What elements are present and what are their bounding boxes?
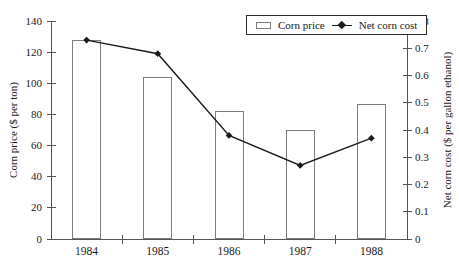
left-axis-tick-label: 140 bbox=[9, 15, 42, 28]
right-axis-tick bbox=[403, 130, 412, 131]
right-axis-tick-label: 0 bbox=[415, 233, 445, 246]
left-axis-tick bbox=[47, 176, 56, 177]
left-axis-tick bbox=[47, 207, 56, 208]
x-axis-line bbox=[51, 239, 408, 240]
left-axis-tick-label: 120 bbox=[9, 46, 42, 59]
right-axis-tick bbox=[403, 75, 412, 76]
left-axis-tick bbox=[47, 114, 56, 115]
left-axis-tick bbox=[47, 21, 56, 22]
left-axis-tick bbox=[47, 52, 56, 53]
left-axis-tick-label: 80 bbox=[9, 108, 42, 121]
corn-price-bar bbox=[286, 130, 315, 239]
bar-swatch-icon bbox=[256, 22, 271, 29]
x-axis-category-label: 1987 bbox=[272, 245, 328, 258]
x-axis-category-label: 1986 bbox=[201, 245, 257, 258]
right-axis-tick bbox=[403, 157, 412, 158]
corn-price-bar bbox=[143, 77, 172, 239]
right-axis-tick-label: 0.1 bbox=[415, 205, 445, 218]
right-axis-tick-label: 0.5 bbox=[415, 96, 445, 109]
right-axis-tick-label: 0.3 bbox=[415, 151, 445, 164]
right-axis-tick-label: 0.7 bbox=[415, 42, 445, 55]
right-axis-tick bbox=[403, 239, 412, 240]
right-axis-line bbox=[407, 21, 408, 240]
right-axis-tick bbox=[403, 102, 412, 103]
right-axis-tick bbox=[403, 184, 412, 185]
corn-price-bar bbox=[357, 104, 386, 239]
line-diamond-swatch-icon bbox=[332, 21, 352, 30]
x-axis-tick bbox=[122, 235, 123, 244]
left-axis-tick-label: 20 bbox=[9, 201, 42, 214]
right-axis-tick-label: 0.2 bbox=[415, 178, 445, 191]
left-axis-tick-label: 100 bbox=[9, 77, 42, 90]
left-axis-tick-label: 0 bbox=[9, 233, 42, 246]
left-axis-tick bbox=[47, 145, 56, 146]
left-axis-tick-label: 60 bbox=[9, 139, 42, 152]
x-axis-tick bbox=[193, 235, 194, 244]
x-axis-category-label: 1984 bbox=[59, 245, 115, 258]
left-axis-tick-label: 40 bbox=[9, 170, 42, 183]
legend: Corn price Net corn cost bbox=[246, 15, 427, 35]
corn-price-bar bbox=[215, 111, 244, 239]
x-axis-tick bbox=[335, 235, 336, 244]
x-axis-category-label: 1988 bbox=[343, 245, 399, 258]
x-axis-tick bbox=[264, 235, 265, 244]
corn-price-bar bbox=[72, 40, 101, 239]
diamond-marker bbox=[154, 50, 161, 57]
left-axis-tick bbox=[47, 239, 56, 240]
right-axis-tick bbox=[403, 48, 412, 49]
legend-label-corn-price: Corn price bbox=[278, 19, 325, 31]
right-axis-tick-label: 0.6 bbox=[415, 69, 445, 82]
left-axis-title: Corn price ($ per ton) bbox=[7, 82, 19, 178]
corn-price-ethanol-chart: Corn price ($ per ton) Net corn cost ($ … bbox=[0, 0, 459, 272]
right-axis-tick-label: 0.4 bbox=[415, 124, 445, 137]
x-axis-category-label: 1985 bbox=[130, 245, 186, 258]
legend-label-net-corn-cost: Net corn cost bbox=[359, 19, 418, 31]
right-axis-tick bbox=[403, 211, 412, 212]
left-axis-tick bbox=[47, 83, 56, 84]
